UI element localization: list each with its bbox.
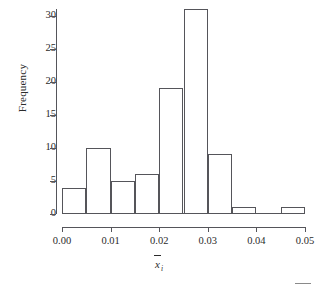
histogram-bar [111, 181, 135, 214]
y-axis-tick-mark [50, 214, 56, 215]
y-axis-tick-label: 20 [34, 76, 56, 86]
y-axis-tick-mark [50, 181, 56, 182]
y-axis-tick-label: 30 [34, 10, 56, 20]
histogram-bar [135, 174, 159, 214]
y-axis-tick-label: 0 [34, 208, 56, 218]
x-axis-title: xi [0, 258, 317, 273]
x-axis-tick-mark [256, 227, 257, 232]
x-axis-title-subscript: i [161, 264, 163, 273]
x-axis-tick-label: 0.00 [39, 235, 85, 246]
x-bar-symbol: x [154, 258, 161, 270]
histogram-bar [184, 9, 208, 214]
y-axis-tick-label: 5 [34, 175, 56, 185]
x-axis-tick-mark [208, 227, 209, 232]
y-axis-tick-mark [50, 82, 56, 83]
y-axis-line [56, 9, 57, 214]
histogram-bar [208, 154, 232, 214]
y-axis-tick-label: 15 [34, 109, 56, 119]
histogram-bar [62, 188, 86, 214]
y-axis-tick-label: 25 [34, 43, 56, 53]
x-axis-tick-label: 0.02 [136, 235, 182, 246]
x-axis-tick-mark [62, 227, 63, 232]
y-axis-tick-label: 10 [34, 142, 56, 152]
histogram-bar [159, 88, 183, 214]
overbar-decoration [154, 255, 161, 256]
y-axis-tick-mark [50, 16, 56, 17]
x-axis-tick-mark [305, 227, 306, 232]
x-axis-tick-label: 0.01 [88, 235, 134, 246]
plot-baseline [62, 213, 305, 214]
y-axis-tick-mark [50, 49, 56, 50]
x-axis-tick-label: 0.04 [233, 235, 279, 246]
histogram-bar [86, 148, 110, 214]
plot-area [62, 9, 305, 214]
x-axis-line [62, 227, 305, 228]
corner-mark [295, 283, 311, 284]
x-axis-tick-mark [111, 227, 112, 232]
y-axis-tick-mark [50, 115, 56, 116]
x-axis-tick-label: 0.05 [282, 235, 317, 246]
histogram-figure: Frequency 051015202530 0.000.010.020.030… [0, 0, 317, 286]
y-axis-tick-mark [50, 148, 56, 149]
x-axis-tick-mark [159, 227, 160, 232]
x-axis-title-base: x [155, 258, 160, 270]
x-axis-tick-label: 0.03 [185, 235, 231, 246]
y-axis-title: Frequency [16, 28, 28, 148]
